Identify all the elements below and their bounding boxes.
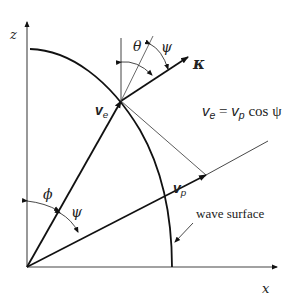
- vp-ray: [206, 141, 268, 175]
- projection-line: [121, 101, 206, 175]
- eq-rhs-symbol: v: [231, 102, 239, 119]
- theta-arc: [121, 62, 152, 75]
- vp-subscript: p: [181, 187, 186, 198]
- vp-ray-extension: [200, 141, 215, 178]
- equation-equals: =: [219, 103, 227, 119]
- phi-label: ϕ: [43, 187, 53, 201]
- z-axis-label: z: [10, 28, 17, 41]
- diagram-canvas: [0, 0, 288, 302]
- theta-label: θ: [133, 39, 141, 53]
- eq-lhs-sub: e: [210, 109, 216, 121]
- x-axis-label: x: [262, 282, 269, 295]
- eq-rhs-sub: p: [239, 109, 245, 121]
- psi-top-label: ψ: [161, 40, 172, 54]
- axes: [27, 22, 277, 267]
- wave-surface-label: wave surface: [196, 207, 264, 220]
- psi-bottom-label: ψ: [71, 205, 82, 219]
- eq-lhs-symbol: v: [202, 102, 210, 119]
- vp-continuation: [190, 143, 215, 184]
- k-label: κ: [193, 56, 205, 72]
- k-vector: [121, 57, 188, 101]
- ve-label: ve: [95, 103, 108, 120]
- phi-arc: [27, 201, 59, 211]
- equation-rhs: vp: [231, 102, 244, 119]
- equation: ve = vp cos ψ: [202, 103, 282, 121]
- vp-label: vp: [173, 181, 186, 198]
- ve-subscript: e: [103, 109, 108, 120]
- wave-surface-diagram: z x ve vp κ θ ψ ϕ ψ ve = vp cos ψ wave s…: [0, 0, 288, 302]
- wave-surface-pointer: [175, 223, 193, 242]
- equation-cos-psi: cos ψ: [248, 103, 281, 119]
- ve-symbol: v: [95, 102, 103, 118]
- vp-symbol: v: [173, 180, 181, 196]
- equation-lhs: ve: [202, 102, 215, 119]
